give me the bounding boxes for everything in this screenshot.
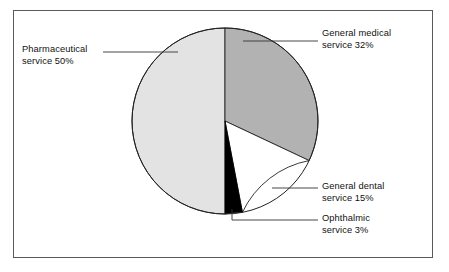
pie-label-general-medical-line2: service 32%: [322, 40, 391, 52]
pie-chart-figure: Pharmaceutical service 50% General medic…: [0, 0, 449, 272]
pie-label-general-dental-line1: General dental: [322, 181, 384, 191]
pie-label-pharmaceutical-line2: service 50%: [22, 56, 87, 68]
pie-label-general-dental-line2: service 15%: [322, 193, 384, 205]
pie-label-pharmaceutical-service: Pharmaceutical service 50%: [22, 44, 87, 67]
pie-label-ophthalmic-line1: Ophthalmic: [322, 213, 370, 223]
pie-label-ophthalmic-line2: service 3%: [322, 225, 370, 237]
pie-label-general-dental-service: General dental service 15%: [322, 181, 384, 204]
pie-label-general-medical-service: General medical service 32%: [322, 28, 391, 51]
pie-slice-pharmaceutical-service[interactable]: [132, 28, 225, 214]
pie-label-ophthalmic-service: Ophthalmic service 3%: [322, 213, 370, 236]
pie-label-general-medical-line1: General medical: [322, 28, 391, 38]
leader-line-ophthalmic: [232, 209, 318, 220]
pie-label-pharmaceutical-line1: Pharmaceutical: [22, 44, 87, 54]
